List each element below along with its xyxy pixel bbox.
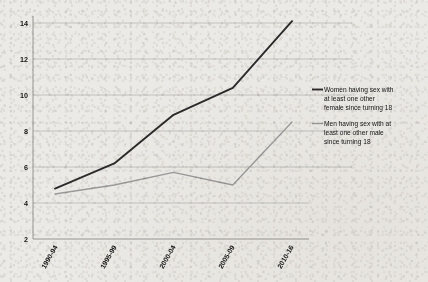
- legend-label-women-line3: female since turning 18: [324, 104, 393, 112]
- x-tick-2010-16: 2010-16: [276, 244, 295, 270]
- chart-legend: Women having sex with at least one other…: [312, 86, 394, 146]
- legend-label-men-line2: least one other male: [324, 129, 384, 136]
- y-tick-labels: 14 12 10 8 6 4 2: [20, 19, 28, 244]
- y-tick-4: 4: [24, 199, 28, 208]
- legend-entry-men[interactable]: Men having sex with at least one other m…: [312, 120, 391, 146]
- legend-label-men-line1: Men having sex with at: [324, 120, 391, 128]
- legend-label-men-line3: since turning 18: [324, 138, 371, 146]
- x-tick-labels: 1990-94 1995-99 2000-04 2005-09 2010-16: [40, 244, 295, 270]
- y-tick-10: 10: [20, 91, 28, 100]
- x-tick-1990-94: 1990-94: [40, 244, 59, 270]
- line-chart: 14 12 10 8 6 4 2 1990-94 1995-99 2000-04…: [0, 0, 428, 282]
- legend-label-women-line2: at least one other: [324, 95, 376, 102]
- y-tick-2: 2: [24, 235, 28, 244]
- x-tick-2005-09: 2005-09: [217, 244, 236, 270]
- y-tick-12: 12: [20, 55, 28, 64]
- series-line-men: [55, 122, 292, 194]
- chart-canvas: 14 12 10 8 6 4 2 1990-94 1995-99 2000-04…: [0, 0, 428, 282]
- y-tick-6: 6: [24, 163, 28, 172]
- series-line-women: [55, 21, 292, 188]
- x-tick-2000-04: 2000-04: [158, 244, 177, 270]
- x-tick-1995-99: 1995-99: [99, 244, 118, 270]
- y-tick-14: 14: [20, 19, 28, 28]
- legend-entry-women[interactable]: Women having sex with at least one other…: [312, 86, 394, 112]
- y-tick-8: 8: [24, 127, 28, 136]
- legend-label-women-line1: Women having sex with: [324, 86, 394, 94]
